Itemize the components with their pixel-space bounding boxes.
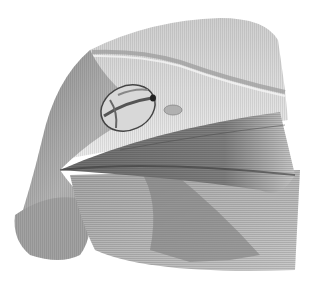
coracoid-marker bbox=[164, 105, 182, 115]
shoulder-anatomy-illustration bbox=[0, 0, 312, 291]
